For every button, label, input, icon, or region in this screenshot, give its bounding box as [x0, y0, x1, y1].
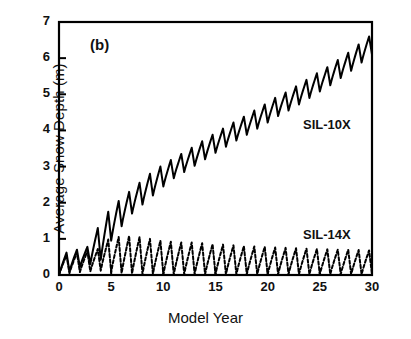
y-tick-7: 7 [26, 13, 50, 28]
x-tick-25: 25 [305, 279, 335, 294]
y-tick-1: 1 [26, 230, 50, 245]
x-tick-0: 0 [44, 279, 74, 294]
x-tick-20: 20 [253, 279, 283, 294]
x-tick-15: 15 [201, 279, 231, 294]
y-tick-4: 4 [26, 121, 50, 136]
y-tick-5: 5 [26, 85, 50, 100]
y-tick-6: 6 [26, 49, 50, 64]
x-tick-10: 10 [148, 279, 178, 294]
y-tick-2: 2 [26, 194, 50, 209]
figure-panel-b: Average Snow Depth (m) Model Year (b) SI… [0, 0, 411, 339]
series-line-sil-10x [59, 36, 372, 275]
x-tick-5: 5 [96, 279, 126, 294]
y-tick-3: 3 [26, 158, 50, 173]
x-tick-30: 30 [357, 279, 387, 294]
series-line-sil-14x [59, 236, 372, 275]
